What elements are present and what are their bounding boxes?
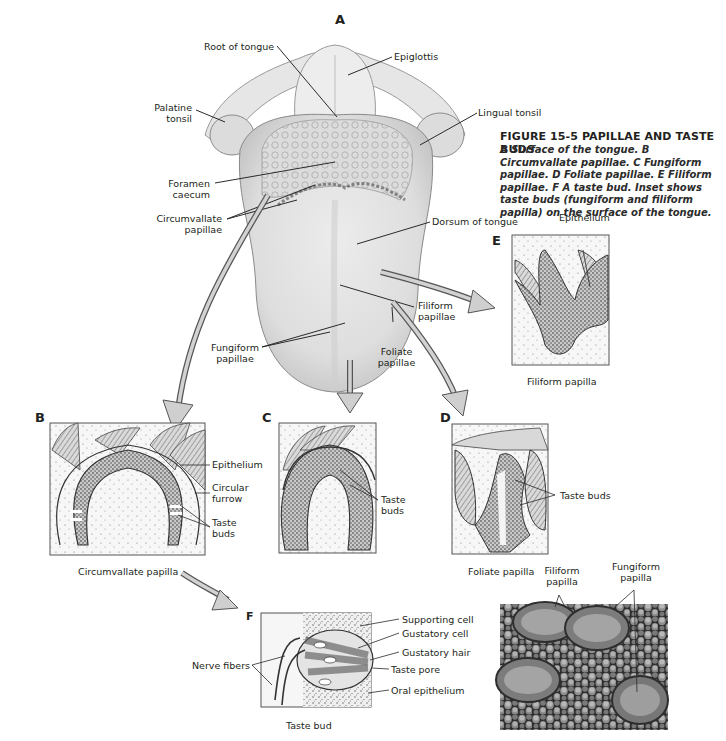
caption-circumvallate-papilla: Circumvallate papilla bbox=[78, 566, 178, 577]
label-b-taste-buds: Taste buds bbox=[212, 517, 237, 539]
label-filiform-line2: papillae bbox=[418, 311, 455, 322]
label-inset-filiform-line1: Filiform bbox=[540, 565, 584, 576]
caption-filiform-papilla: Filiform papilla bbox=[527, 376, 596, 387]
label-filiform-line1: Filiform bbox=[418, 300, 455, 311]
label-inset-filiform: Filiform papilla bbox=[540, 565, 584, 587]
label-foramen-line2: caecum bbox=[155, 189, 210, 200]
label-nerve-fibers: Nerve fibers bbox=[180, 660, 250, 671]
label-fungiform-line1: Fungiform bbox=[208, 342, 262, 353]
label-foliate-line2: papillae bbox=[374, 357, 419, 368]
panel-letter-b: B bbox=[35, 410, 45, 425]
label-furrow-line1: Circular bbox=[212, 482, 249, 493]
caption-letter-f: F bbox=[552, 182, 559, 193]
label-taste-pore: Taste pore bbox=[391, 664, 440, 675]
label-lingual-tonsil: Lingual tonsil bbox=[478, 107, 541, 118]
label-foliate-line1: Foliate bbox=[374, 346, 419, 357]
label-palatine-tonsil: Palatine tonsil bbox=[150, 102, 192, 124]
caption-letter-a: A bbox=[500, 144, 508, 155]
label-circumvallate-line1: Circumvallate bbox=[150, 213, 222, 224]
label-c-taste-line1: Taste bbox=[381, 494, 406, 505]
figure-artwork bbox=[0, 0, 726, 741]
label-filiform-papillae: Filiform papillae bbox=[418, 300, 455, 322]
label-c-taste-buds: Taste buds bbox=[381, 494, 406, 516]
panel-letter-e: E bbox=[492, 233, 501, 248]
panel-d-illustration bbox=[452, 424, 555, 554]
figure-caption: A Surface of the tongue. B Circumvallate… bbox=[500, 144, 726, 220]
label-b-circular-furrow: Circular furrow bbox=[212, 482, 249, 504]
panel-letter-a: A bbox=[335, 12, 345, 27]
caption-text-a: Surface of the tongue. bbox=[508, 144, 642, 155]
caption-text-b: Circumvallate papillae. bbox=[500, 157, 633, 168]
label-root-of-tongue: Root of tongue bbox=[204, 41, 274, 52]
label-foramen-caecum: Foramen caecum bbox=[155, 178, 210, 200]
panel-b-illustration bbox=[50, 423, 210, 555]
label-b-epithelium: Epithelium bbox=[212, 459, 263, 470]
label-fungiform-line2: papillae bbox=[208, 353, 262, 364]
caption-letter-e: E bbox=[658, 169, 665, 180]
label-foliate-papillae: Foliate papillae bbox=[374, 346, 419, 368]
panel-c-illustration bbox=[279, 423, 378, 553]
caption-letter-c: C bbox=[633, 157, 640, 168]
caption-taste-bud: Taste bud bbox=[286, 720, 332, 731]
label-e-epithelium: Epithelium bbox=[559, 212, 610, 223]
label-inset-fungiform: Fungiform papilla bbox=[608, 561, 664, 583]
panel-letter-c: C bbox=[262, 410, 272, 425]
sem-inset-photo bbox=[496, 590, 668, 730]
label-furrow-line2: furrow bbox=[212, 493, 249, 504]
caption-foliate-papilla: Foliate papilla bbox=[468, 566, 534, 577]
caption-letter-b: B bbox=[642, 144, 650, 155]
label-palatine-line2: tonsil bbox=[150, 113, 192, 124]
label-supporting-cell: Supporting cell bbox=[402, 614, 474, 625]
label-c-taste-line2: buds bbox=[381, 505, 406, 516]
label-fungiform-papillae: Fungiform papillae bbox=[208, 342, 262, 364]
panel-f-illustration bbox=[252, 613, 399, 707]
label-circumvallate-papillae: Circumvallate papillae bbox=[150, 213, 222, 235]
label-d-taste-buds: Taste buds bbox=[560, 490, 611, 501]
panel-letter-d: D bbox=[440, 410, 451, 425]
label-palatine-line1: Palatine bbox=[150, 102, 192, 113]
label-inset-filiform-line2: papilla bbox=[540, 576, 584, 587]
label-b-taste-line2: buds bbox=[212, 528, 237, 539]
label-b-taste-line1: Taste bbox=[212, 517, 237, 528]
label-gustatory-hair: Gustatory hair bbox=[402, 647, 470, 658]
panel-e-illustration bbox=[512, 235, 609, 365]
label-inset-fungiform-line2: papilla bbox=[608, 572, 664, 583]
label-foramen-line1: Foramen bbox=[155, 178, 210, 189]
label-inset-fungiform-line1: Fungiform bbox=[608, 561, 664, 572]
label-oral-epithelium: Oral epithelium bbox=[391, 685, 465, 696]
panel-letter-f: F bbox=[246, 610, 254, 623]
label-circumvallate-line2: papillae bbox=[150, 224, 222, 235]
label-gustatory-cell: Gustatory cell bbox=[402, 628, 468, 639]
label-epiglottis: Epiglottis bbox=[394, 51, 438, 62]
caption-text-d: Foliate papillae. bbox=[560, 169, 657, 180]
